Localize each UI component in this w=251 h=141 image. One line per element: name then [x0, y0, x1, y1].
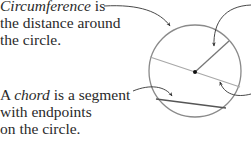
center-point	[193, 70, 197, 74]
radius-line	[195, 41, 229, 72]
circumference-arrow	[104, 6, 170, 26]
circle-diagram	[0, 0, 251, 141]
radius-arrow	[214, 5, 251, 46]
